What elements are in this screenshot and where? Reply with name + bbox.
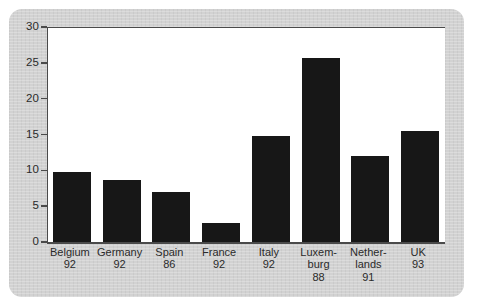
- y-axis-tick-label: 25: [13, 57, 39, 69]
- x-axis-category-label: Germany 92: [95, 246, 145, 271]
- y-axis-tick-mark: [41, 170, 47, 172]
- bar: [53, 172, 91, 242]
- x-axis-category-label: France 92: [194, 246, 244, 271]
- y-axis: 051015202530: [9, 0, 39, 307]
- y-axis-tick-mark: [41, 62, 47, 64]
- bar: [152, 192, 190, 242]
- bar: [202, 223, 240, 242]
- x-axis-category-label: Belgium 92: [45, 246, 95, 271]
- y-axis-tick-label: 10: [13, 164, 39, 176]
- bar: [302, 58, 340, 242]
- y-axis-tick-label: 15: [13, 129, 39, 141]
- y-axis-tick-mark: [41, 98, 47, 100]
- y-axis-tick-label: 20: [13, 93, 39, 105]
- y-axis-tick-mark: [41, 241, 47, 243]
- y-axis-tick-mark: [41, 134, 47, 136]
- y-axis-tick-label: 30: [13, 21, 39, 33]
- x-axis-category-label: Italy 92: [244, 246, 294, 271]
- x-axis-labels: Belgium 92Germany 92Spain 86France 92Ita…: [47, 246, 445, 292]
- plot-area: [49, 29, 445, 243]
- x-axis-category-label: Luxem- burg 88: [294, 246, 344, 283]
- bar: [351, 156, 389, 242]
- x-axis-category-label: Nether- lands 91: [344, 246, 394, 283]
- y-axis-tick-mark: [41, 26, 47, 28]
- bar: [103, 180, 141, 242]
- chart-figure: 051015202530 Belgium 92Germany 92Spain 8…: [0, 0, 477, 307]
- x-axis-category-label: UK 93: [393, 246, 443, 271]
- y-axis-tick-label: 0: [13, 236, 39, 248]
- y-axis-tick-label: 5: [13, 200, 39, 212]
- bar: [401, 131, 439, 242]
- bar: [252, 136, 290, 242]
- x-axis-baseline: [47, 242, 445, 244]
- y-axis-tick-mark: [41, 205, 47, 207]
- x-axis-category-label: Spain 86: [145, 246, 195, 271]
